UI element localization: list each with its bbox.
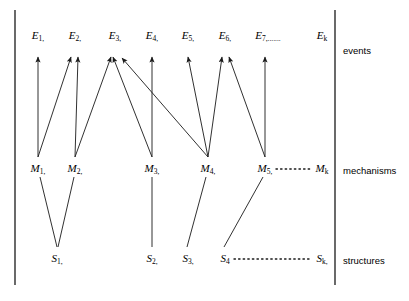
link-m2-s1 bbox=[58, 177, 74, 247]
mechanism-event-arrows bbox=[38, 57, 265, 157]
node-subscript: 4, bbox=[210, 167, 216, 176]
node-structure-s2: S2, bbox=[146, 253, 157, 264]
node-subscript: k bbox=[325, 167, 329, 176]
node-base-letter: S bbox=[182, 252, 188, 264]
node-subscript: 1, bbox=[57, 257, 63, 266]
row-label-structures: structures bbox=[343, 256, 385, 266]
node-base-letter: E bbox=[109, 29, 116, 41]
link-m1-s1 bbox=[40, 177, 57, 247]
node-base-letter: S bbox=[146, 252, 152, 264]
link-m4-s3 bbox=[187, 177, 206, 247]
node-event-e1: E1, bbox=[32, 30, 44, 41]
node-subscript: 4, bbox=[153, 34, 159, 43]
node-event-e2: E2, bbox=[69, 30, 81, 41]
node-structure-s3: S3, bbox=[182, 253, 193, 264]
node-structure-s1: S1, bbox=[51, 253, 62, 264]
arrow-m4-to-e5 bbox=[188, 57, 208, 157]
node-base-letter: M bbox=[258, 162, 267, 174]
node-subscript: 2, bbox=[76, 34, 82, 43]
node-subscript: 1, bbox=[39, 34, 45, 43]
node-base-letter: E bbox=[146, 29, 153, 41]
node-event-e3: E3, bbox=[109, 30, 121, 41]
node-base-letter: E bbox=[219, 29, 226, 41]
node-base-letter: M bbox=[31, 162, 40, 174]
node-base-letter: E bbox=[69, 29, 76, 41]
node-subscript: k, bbox=[322, 257, 328, 266]
node-base-letter: M bbox=[68, 162, 77, 174]
frame-rules bbox=[15, 10, 335, 285]
node-structure-sk: Sk, bbox=[316, 253, 327, 264]
node-subscript: 4 bbox=[226, 257, 230, 266]
node-subscript: 6, bbox=[226, 34, 232, 43]
node-mechanism-m1: M1, bbox=[31, 163, 46, 174]
arrow-m3-to-e3 bbox=[113, 57, 152, 157]
node-event-e4: E4, bbox=[146, 30, 158, 41]
node-mechanism-m4: M4, bbox=[201, 163, 216, 174]
node-subscript: 1, bbox=[40, 167, 46, 176]
ellipsis-dot-leaders bbox=[234, 169, 312, 259]
node-subscript: 2, bbox=[77, 167, 83, 176]
link-m5-s4 bbox=[224, 177, 263, 247]
arrow-m1-to-e2 bbox=[38, 57, 71, 157]
node-base-letter: M bbox=[145, 162, 154, 174]
node-base-letter: S bbox=[51, 252, 57, 264]
node-subscript: k bbox=[323, 34, 327, 43]
arrow-m2-to-e3 bbox=[75, 57, 111, 157]
node-subscript: 3, bbox=[188, 257, 194, 266]
node-base-letter: M bbox=[201, 162, 210, 174]
node-base-letter: E bbox=[317, 29, 324, 41]
node-subscript: 7,....... bbox=[262, 34, 281, 43]
node-base-letter: E bbox=[32, 29, 39, 41]
node-subscript: 5, bbox=[267, 167, 273, 176]
node-subscript: 5, bbox=[189, 34, 195, 43]
node-base-letter: S bbox=[220, 252, 226, 264]
node-base-letter: M bbox=[316, 162, 325, 174]
diagram-canvas: E1,E2,E3,E4,E5,E6,E7,.......EkM1,M2,M3,M… bbox=[0, 0, 409, 301]
node-event-e5: E5, bbox=[182, 30, 194, 41]
node-subscript: 2, bbox=[152, 257, 158, 266]
node-mechanism-m3: M3, bbox=[145, 163, 160, 174]
node-event-e6: E6, bbox=[219, 30, 231, 41]
node-structure-s4: S4 bbox=[220, 253, 229, 264]
node-subscript: 3, bbox=[154, 167, 160, 176]
node-base-letter: E bbox=[182, 29, 189, 41]
arrow-m4-to-e6 bbox=[208, 57, 222, 157]
arrow-m2-to-e2 bbox=[75, 57, 78, 157]
row-label-events: events bbox=[343, 46, 371, 56]
node-mechanism-mk: Mk bbox=[316, 163, 329, 174]
node-base-letter: E bbox=[255, 29, 262, 41]
node-subscript: 3, bbox=[116, 34, 122, 43]
node-base-letter: S bbox=[316, 252, 322, 264]
mechanism-structure-links bbox=[40, 177, 263, 247]
node-event-ek: Ek bbox=[317, 30, 327, 41]
arrow-m4-to-e3 bbox=[122, 58, 208, 157]
arrow-m5-to-e6 bbox=[229, 57, 265, 157]
node-mechanism-m2: M2, bbox=[68, 163, 83, 174]
node-mechanism-m5: M5, bbox=[258, 163, 273, 174]
node-event-e7: E7,....... bbox=[255, 30, 280, 41]
row-label-mechanisms: mechanisms bbox=[343, 166, 396, 176]
